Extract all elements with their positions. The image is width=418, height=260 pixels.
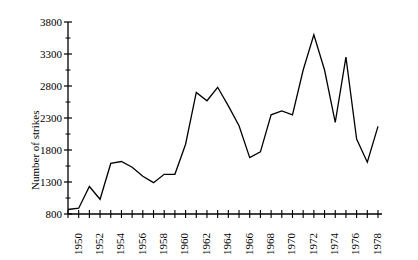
- strikes-data-line: [68, 35, 378, 210]
- y-tick-label: 2800: [24, 81, 62, 92]
- x-tick-label: 1974: [329, 233, 340, 255]
- x-tick-label: 1978: [372, 233, 383, 255]
- line-chart-plot: [0, 0, 418, 260]
- y-tick-label: 1800: [24, 145, 62, 156]
- chart-container: Number of strikes 8001300180023002800330…: [0, 0, 418, 260]
- x-tick-label: 1950: [73, 233, 84, 255]
- x-tick-label: 1968: [265, 233, 276, 255]
- y-tick-label: 800: [24, 209, 62, 220]
- x-tick-label: 1956: [137, 233, 148, 255]
- x-tick-label: 1966: [244, 233, 255, 255]
- y-tick-label: 2300: [24, 113, 62, 124]
- y-tick-label: 1300: [24, 177, 62, 188]
- x-tick-label: 1960: [179, 233, 190, 255]
- x-tick-label: 1976: [350, 233, 361, 255]
- x-tick-label: 1958: [158, 233, 169, 255]
- x-tick-label: 1954: [115, 233, 126, 255]
- x-tick-label: 1970: [286, 233, 297, 255]
- x-tick-label: 1962: [201, 233, 212, 255]
- y-tick-label: 3300: [24, 49, 62, 60]
- x-tick-label: 1964: [222, 233, 233, 255]
- x-tick-label: 1972: [308, 233, 319, 255]
- y-tick-label: 3800: [24, 17, 62, 28]
- x-tick-label: 1952: [94, 233, 105, 255]
